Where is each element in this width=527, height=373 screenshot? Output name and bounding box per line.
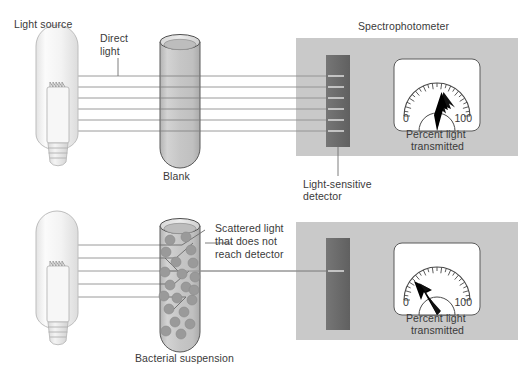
label-light-source: Light source (14, 18, 72, 31)
meter-bottom-min-label: 0 (403, 296, 409, 308)
meter-top-max-label: 100 (454, 112, 472, 124)
meter-top-caption-line1: Percent light (406, 128, 466, 141)
label-direct-light-line1: Direct (100, 32, 128, 45)
light-source-bulb-bottom (36, 211, 78, 345)
label-scattered-line1: Scattered light (215, 222, 284, 235)
label-scattered-line3: reach detector (215, 248, 284, 261)
meter-top-min-label: 0 (403, 112, 409, 124)
label-scattered-line2: that does not (215, 235, 277, 248)
meter-top-caption-line2: transmitted (411, 140, 464, 153)
label-bacterial-suspension: Bacterial suspension (135, 352, 234, 365)
label-spectrophotometer: Spectrophotometer (358, 20, 449, 33)
light-source-bulb-top (36, 25, 78, 166)
meter-bottom: 0 100 (394, 243, 480, 315)
light-sensitive-detector-top (326, 55, 350, 147)
label-blank: Blank (163, 170, 190, 183)
figure-canvas: 0 100 (0, 0, 527, 373)
meter-bottom-caption-line2: transmitted (411, 324, 464, 337)
meter-bottom-caption-line1: Percent light (406, 312, 466, 325)
light-rays-top (75, 76, 330, 131)
label-detector-line2: detector (303, 190, 342, 203)
bulb-screw-base-top (48, 143, 68, 166)
light-sensitive-detector-bottom (326, 238, 350, 330)
label-detector-line1: Light-sensitive (303, 178, 372, 191)
meter-bottom-max-label: 100 (454, 296, 472, 308)
bulb-screw-base-bottom (48, 322, 68, 345)
light-rays-bottom-incoming (75, 245, 160, 297)
label-direct-light-line2: light (100, 45, 120, 58)
meter-top: 0 100 (394, 59, 480, 131)
blank-tube (160, 35, 200, 169)
